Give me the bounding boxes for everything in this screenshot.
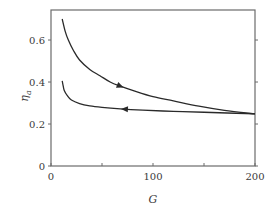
arrow-head-icon xyxy=(116,82,124,88)
chart-svg: 010020000.20.40.6 G ηa xyxy=(0,0,274,207)
y-axis-label-subscript: a xyxy=(24,90,33,95)
y-tick-label: 0.2 xyxy=(29,119,45,130)
y-tick-label: 0.4 xyxy=(29,77,45,88)
x-axis-label: G xyxy=(149,193,158,206)
y-tick-label: 0 xyxy=(39,161,45,172)
series-curve-0 xyxy=(62,19,255,114)
plot-frame xyxy=(51,10,255,166)
arrow-head-icon xyxy=(121,106,128,112)
x-tick-label: 200 xyxy=(245,171,264,182)
tick-labels: 010020000.20.40.6 xyxy=(29,35,264,182)
direction-arrows xyxy=(116,82,128,112)
y-axis-label: ηa xyxy=(18,90,33,102)
data-curves xyxy=(62,19,255,114)
x-tick-label: 100 xyxy=(143,171,162,182)
y-tick-label: 0.6 xyxy=(29,35,45,46)
x-tick-label: 0 xyxy=(48,171,54,182)
plot-border xyxy=(51,10,255,166)
